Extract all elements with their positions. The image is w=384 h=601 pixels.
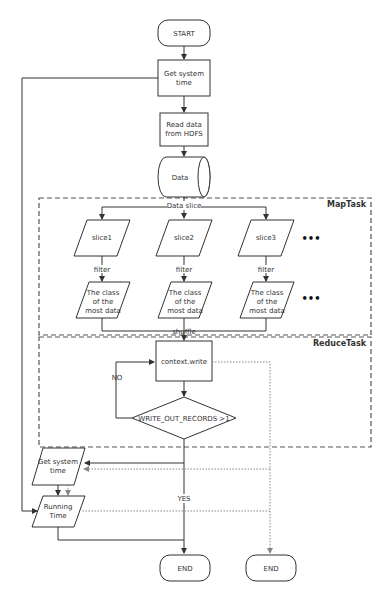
ellipsis-row1: •••	[301, 233, 320, 244]
class1-line1: The class	[86, 289, 120, 297]
class2-node[interactable]: The class of the most data	[158, 282, 212, 318]
get-time-1-line1: Get system	[164, 70, 204, 78]
start-label: START	[173, 30, 195, 38]
maptask-label: MapTask	[327, 200, 367, 209]
class2-line1: The class	[168, 289, 202, 297]
end-node-1[interactable]: END	[160, 555, 210, 581]
slice2-node[interactable]: slice2	[156, 220, 212, 256]
slice3-node[interactable]: slice3	[238, 220, 294, 256]
decision-node[interactable]: WRITE_OUT_RECORDS >1	[132, 397, 236, 439]
reducetask-label: ReduceTask	[313, 339, 367, 348]
read-hdfs-line1: Read data	[166, 121, 202, 129]
flowchart-canvas: MapTask ReduceTask START Get system time…	[0, 0, 384, 601]
end1-label: END	[177, 565, 192, 573]
slice1-label: slice1	[92, 234, 112, 242]
get-time-2-line2: time	[50, 467, 66, 475]
class2-line2: of the	[175, 298, 195, 306]
ellipsis-row2: •••	[301, 293, 320, 304]
slice1-node[interactable]: slice1	[74, 220, 130, 256]
data-slice-label: Data slice	[167, 202, 202, 210]
get-time-2-line1: Get system	[38, 458, 78, 466]
context-write-label: context.write	[161, 358, 207, 366]
get-time-1-line2: time	[176, 79, 192, 87]
slice2-label: slice2	[174, 234, 194, 242]
shuffle-label: shuffle	[172, 328, 196, 336]
yes-label: YES	[176, 495, 191, 503]
filter-label-2: filter	[176, 266, 192, 274]
no-label: NO	[112, 374, 123, 382]
start-node[interactable]: START	[158, 20, 210, 46]
class3-line3: most data	[249, 307, 285, 315]
end-node-2[interactable]: END	[246, 555, 296, 581]
read-hdfs-line2: from HDFS	[165, 130, 203, 138]
get-system-time-node[interactable]: Get system time	[158, 60, 210, 96]
end2-label: END	[263, 565, 278, 573]
class1-line2: of the	[93, 298, 113, 306]
context-write-node[interactable]: context.write	[156, 341, 212, 381]
class3-line1: The class	[250, 289, 284, 297]
class3-line2: of the	[257, 298, 277, 306]
filter-label-3: filter	[258, 266, 274, 274]
running-time-line2: Time	[48, 512, 66, 520]
slice3-label: slice3	[256, 234, 276, 242]
class2-line3: most data	[167, 307, 203, 315]
class1-node[interactable]: The class of the most data	[76, 282, 130, 318]
read-hdfs-node[interactable]: Read data from HDFS	[160, 113, 208, 146]
class3-node[interactable]: The class of the most data	[240, 282, 294, 318]
class1-line3: most data	[85, 307, 121, 315]
get-system-time-end-node[interactable]: Get system time	[32, 448, 85, 485]
decision-label: WRITE_OUT_RECORDS >1	[138, 415, 229, 423]
running-time-line1: Running	[44, 503, 73, 511]
data-label: Data	[172, 174, 189, 182]
running-time-node[interactable]: Running Time	[32, 496, 85, 527]
data-store-node[interactable]: Data	[158, 157, 210, 197]
filter-label-1: filter	[94, 266, 110, 274]
